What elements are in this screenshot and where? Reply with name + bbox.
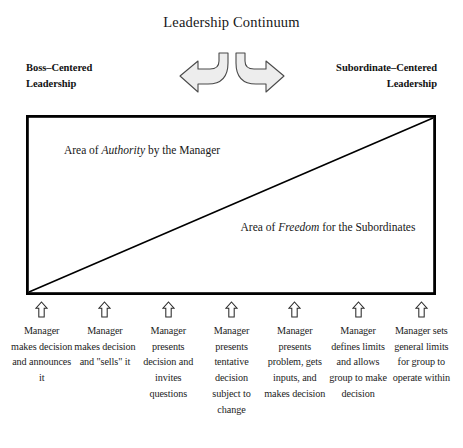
authority-suffix: by the Manager [145,144,220,156]
behaviour-column: Manager presents tentative decision subj… [200,301,263,417]
authority-prefix: Area of [64,144,102,156]
behaviour-column-text: Manager defines limits and allows group … [327,323,388,402]
boss-centered-label: Boss–Centered Leadership [26,60,176,92]
freedom-suffix: for the Subordinates [319,221,415,233]
behaviour-column: Manager presents decision and invites qu… [137,301,200,402]
behaviour-column-text: Manager presents tentative decision subj… [201,323,262,417]
behaviour-column: Manager makes decision and "sells" it [73,301,136,370]
behaviour-column-text: Manager presents decision and invites qu… [138,323,199,402]
up-arrow-icon [35,301,48,323]
page-title: Leadership Continuum [0,14,463,31]
behaviour-columns: Manager makes decision and announces itM… [10,301,453,447]
area-of-authority-label: Area of Authority by the Manager [47,142,237,158]
up-arrow-icon [288,301,301,323]
up-arrow-icon [352,301,365,323]
behaviour-column-text: Manager makes decision and announces it [11,323,72,386]
up-arrow-icon [98,301,111,323]
behaviour-column: Manager presents problem, gets inputs, a… [263,301,326,402]
area-of-freedom-label: Area of Freedom for the Subordinates [233,219,423,235]
up-arrow-icon [225,301,238,323]
up-arrow-icon [162,301,175,323]
freedom-emphasis: Freedom [278,221,319,233]
behaviour-column-text: Manager makes decision and "sells" it [74,323,135,370]
curved-left-arrow [180,53,228,92]
curved-right-arrow [236,53,284,92]
up-arrow-icon [415,301,428,323]
behaviour-column-text: Manager presents problem, gets inputs, a… [264,323,325,402]
behaviour-column-text: Manager sets general limits for group to… [391,323,452,386]
direction-arrows [158,50,306,98]
behaviour-column: Manager makes decision and announces it [10,301,73,386]
authority-emphasis: Authority [102,144,145,156]
behaviour-column: Manager defines limits and allows group … [326,301,389,402]
freedom-prefix: Area of [241,221,279,233]
behaviour-column: Manager sets general limits for group to… [390,301,453,386]
